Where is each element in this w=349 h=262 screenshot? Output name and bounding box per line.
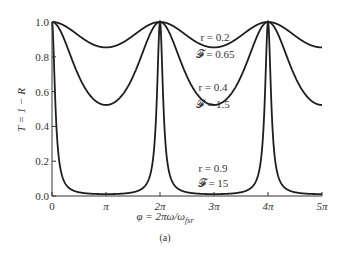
x-tick-label: π	[103, 200, 109, 212]
y-tick-label: 0.8	[35, 51, 49, 63]
transmission-curves	[52, 22, 322, 194]
x-tick-label: 4π	[262, 200, 274, 212]
annotation-f065: 𝓕 = 0.65	[196, 48, 235, 60]
x-tick-label: 0	[49, 200, 55, 212]
annotation-r04: r = 0.4	[198, 81, 228, 93]
chart-canvas: 0.00.20.40.60.81.0 0π2π3π4π5π T = 1 − R …	[0, 0, 349, 262]
curve-series-2	[52, 22, 322, 194]
y-tick-label: 0.4	[35, 120, 49, 132]
x-tick-label: 3π	[207, 200, 220, 212]
annotation-f15: 𝓕 = 1.5	[196, 98, 230, 110]
figure-caption: (a)	[159, 232, 170, 244]
y-axis-label: T = 1 − R	[15, 88, 27, 132]
curve-series-1	[52, 22, 322, 105]
y-tick-label: 0.2	[35, 155, 49, 167]
y-tick-label: 0.6	[35, 86, 49, 98]
x-ticks: 0π2π3π4π5π	[49, 192, 328, 212]
annotation-r09: r = 0.9	[198, 162, 228, 174]
annotation-f15-high: 𝓕 = 15	[198, 177, 229, 189]
x-tick-label: 5π	[316, 200, 328, 212]
y-tick-label: 0.0	[35, 190, 49, 202]
annotation-r02: r = 0.2	[200, 31, 229, 43]
y-tick-label: 1.0	[35, 16, 49, 28]
x-axis-label: φ = 2πω/ωfsr	[136, 210, 194, 225]
